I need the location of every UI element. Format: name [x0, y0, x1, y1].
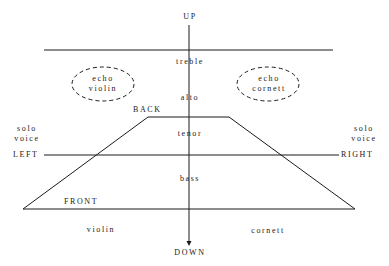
front-label: FRONT — [64, 198, 98, 206]
violin-label: violin — [87, 226, 115, 234]
cornett-label: cornett — [251, 227, 284, 235]
left-label: LEFT — [13, 151, 39, 159]
solo-left-line1: solo — [17, 125, 37, 133]
solo-right-line1: solo — [354, 125, 374, 133]
echo-cornett-line2: cornett — [252, 85, 285, 93]
up-label: UP — [183, 13, 196, 21]
echo-violin-line2: violin — [89, 85, 117, 93]
solo-voice-left-label: solo voice — [14, 125, 39, 143]
solo-left-line2: voice — [14, 135, 39, 143]
echo-violin-label: echo violin — [89, 75, 117, 93]
echo-violin-line1: echo — [92, 75, 114, 83]
echo-cornett-line1: echo — [258, 75, 280, 83]
down-label: DOWN — [174, 249, 205, 257]
solo-right-line2: voice — [351, 135, 376, 143]
down-arrowhead-icon — [187, 241, 192, 246]
treble-label: treble — [176, 58, 204, 66]
alto-label: alto — [181, 94, 199, 102]
right-label: RIGHT — [341, 151, 373, 159]
tenor-label: tenor — [178, 130, 202, 138]
echo-cornett-label: echo cornett — [252, 75, 285, 93]
bass-label: bass — [180, 175, 200, 183]
back-label: BACK — [133, 106, 162, 114]
solo-voice-right-label: solo voice — [351, 125, 376, 143]
